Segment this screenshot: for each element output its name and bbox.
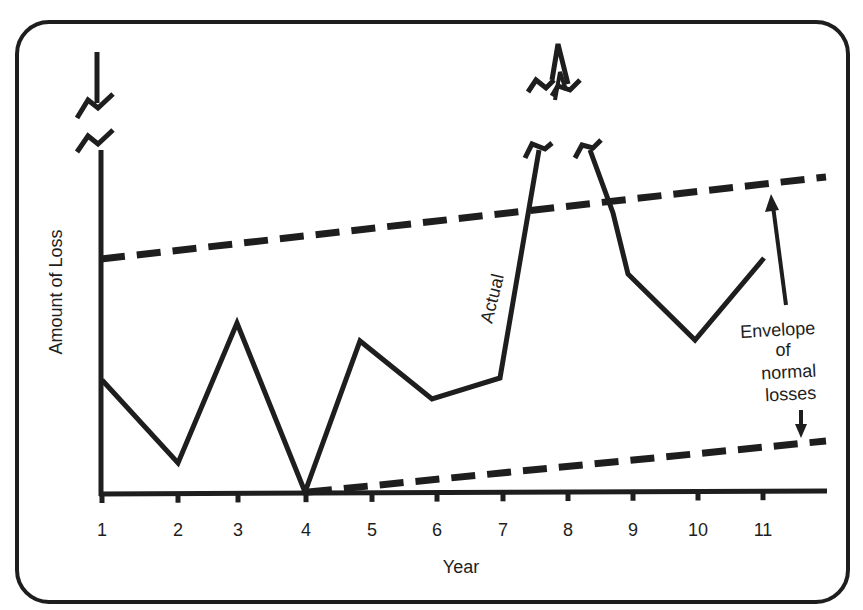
actual-series-label: Actual: [476, 272, 508, 325]
x-tick-label: 11: [754, 520, 773, 540]
envelope-label-line3: normal: [761, 361, 817, 384]
envelope-label-line4: losses: [765, 383, 817, 406]
x-axis: [99, 491, 827, 503]
actual-line-left: [102, 150, 539, 492]
x-tick-label: 10: [688, 520, 708, 540]
envelope-label-line1: Envelope: [740, 318, 816, 342]
envelope-annotation: Envelope of normal losses: [740, 318, 817, 405]
x-axis-label: Year: [443, 557, 479, 577]
axis-break-icon: [77, 130, 113, 152]
peak-fragment-icon: [528, 44, 580, 100]
actual-line-right: [590, 150, 764, 340]
x-tick-label: 2: [173, 520, 183, 540]
arrow-down-icon: [795, 424, 807, 438]
loss-chart: Amount of Loss Year Actual Envelope of n…: [0, 0, 863, 610]
line-break-icon: [575, 140, 601, 158]
arrow-up-icon: [765, 194, 779, 212]
x-tick-label: 3: [233, 520, 243, 540]
envelope-label-line2: of: [775, 340, 791, 360]
envelope-upper-line: [101, 177, 826, 259]
chart-frame: [17, 22, 848, 602]
y-axis-label: Amount of Loss: [46, 229, 66, 354]
x-tick-label: 5: [367, 520, 377, 540]
x-tick-label: 1: [97, 520, 107, 540]
x-tick-label: 9: [628, 520, 638, 540]
x-tick-label: 6: [432, 520, 442, 540]
arrow-up-line: [773, 206, 786, 305]
x-tick-label: 8: [563, 520, 573, 540]
envelope-lower-line: [308, 441, 826, 492]
y-axis: [77, 52, 113, 496]
x-tick-label: 4: [301, 520, 311, 540]
x-tick-label: 7: [498, 520, 508, 540]
x-tick-labels: 1234567891011: [97, 520, 772, 540]
